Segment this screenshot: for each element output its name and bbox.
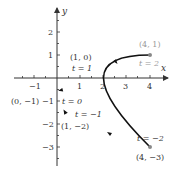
point-label-4-1: (4, 1): [139, 40, 161, 49]
point-label-1-0: (1, 0): [70, 53, 92, 62]
x-tick-label-neg1: −1: [29, 82, 41, 91]
t-label-neg2: t = −2: [137, 134, 164, 143]
point-label-1-neg2: (1, −2): [61, 122, 89, 131]
y-tick-label-1: 1: [48, 51, 53, 60]
x-tick-label-3: 3: [123, 82, 128, 91]
direction-arrow-icon: [107, 132, 112, 136]
t-label-2: t = 2: [139, 59, 159, 68]
point-label-0-neg1: (0, −1): [11, 97, 39, 106]
t-label-0: t = 0: [62, 97, 82, 106]
parametric-curve-diagram: x y −1 1 2 3 4 2 1 −1 −2 −3: [0, 0, 173, 173]
endpoint-4-neg3-dot: [148, 145, 152, 149]
t-label-1: t = 1: [72, 64, 92, 73]
y-tick-label-neg3: −3: [42, 143, 54, 152]
x-axis-label: x: [161, 63, 166, 73]
y-tick-label-neg2: −2: [42, 120, 54, 129]
direction-arrow-icon: [58, 87, 64, 92]
y-tick-label-2: 2: [48, 28, 53, 37]
point-label-4-neg3: (4, −3): [136, 153, 164, 162]
t-label-neg1: t = −1: [75, 110, 102, 119]
y-axis-label: y: [61, 6, 68, 16]
y-tick-label-neg1: −1: [42, 97, 54, 106]
x-tick-label-4: 4: [147, 82, 152, 91]
endpoint-4-1-dot: [148, 53, 152, 57]
direction-arrow-icon: [62, 108, 68, 114]
x-tick-label-1: 1: [77, 82, 82, 91]
